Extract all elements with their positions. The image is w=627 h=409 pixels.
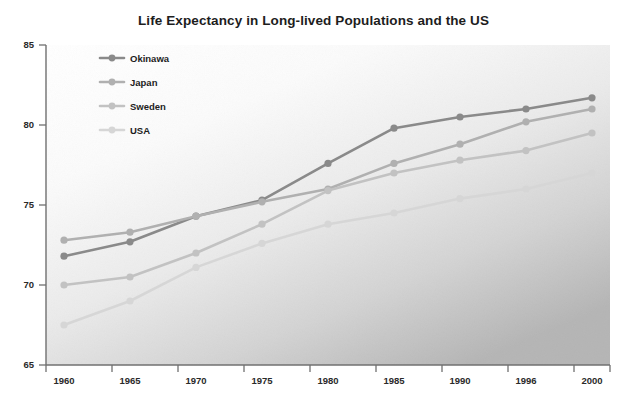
y-tick-label: 75: [23, 199, 34, 210]
legend-label: Sweden: [130, 101, 166, 112]
data-point: [390, 209, 397, 216]
data-point: [522, 118, 529, 125]
chart-figure: Life Expectancy in Long-lived Population…: [0, 0, 627, 409]
data-point: [588, 94, 595, 101]
y-axis-ticks: [39, 45, 46, 365]
line-chart-plot: 85 80 75 70 65 1960196519701975198019851…: [0, 0, 627, 409]
data-point: [390, 169, 397, 176]
data-point: [324, 160, 331, 167]
data-point: [456, 157, 463, 164]
legend-marker-icon: [109, 103, 116, 110]
data-point: [192, 213, 199, 220]
legend-marker-icon: [109, 79, 116, 86]
y-tick-label: 65: [23, 359, 34, 370]
legend-label: USA: [130, 125, 150, 136]
legend-marker-icon: [109, 55, 116, 62]
data-point: [324, 187, 331, 194]
x-tick-label: 1996: [515, 375, 536, 386]
data-point: [60, 237, 67, 244]
data-point: [60, 281, 67, 288]
data-point: [126, 238, 133, 245]
y-tick-label: 70: [23, 279, 34, 290]
data-point: [126, 229, 133, 236]
x-tick-label: 1980: [317, 375, 338, 386]
x-axis-ticks: [46, 365, 610, 372]
data-point: [192, 249, 199, 256]
data-point: [522, 105, 529, 112]
data-point: [456, 141, 463, 148]
legend-label: Japan: [130, 77, 158, 88]
data-point: [588, 129, 595, 136]
x-tick-label: 1970: [185, 375, 206, 386]
data-point: [192, 264, 199, 271]
data-point: [588, 105, 595, 112]
x-tick-label: 1985: [383, 375, 405, 386]
x-tick-label: 1960: [53, 375, 74, 386]
x-axis-tick-labels: 196019651970197519801985199019962000: [53, 375, 602, 386]
legend-label: Okinawa: [130, 53, 170, 64]
y-axis-tick-labels: 85 80 75 70 65: [23, 39, 34, 370]
y-tick-label: 80: [23, 119, 34, 130]
data-point: [60, 253, 67, 260]
data-point: [258, 240, 265, 247]
x-tick-label: 1975: [251, 375, 273, 386]
data-point: [390, 160, 397, 167]
x-tick-label: 2000: [581, 375, 602, 386]
data-point: [258, 221, 265, 228]
y-tick-label: 85: [23, 39, 34, 50]
legend-marker-icon: [109, 127, 116, 134]
data-point: [456, 195, 463, 202]
data-point: [324, 221, 331, 228]
data-point: [390, 125, 397, 132]
plot-background-grain: [46, 45, 610, 365]
data-point: [522, 147, 529, 154]
x-tick-label: 1965: [119, 375, 141, 386]
data-point: [522, 185, 529, 192]
x-tick-label: 1990: [449, 375, 470, 386]
data-point: [588, 169, 595, 176]
data-point: [60, 321, 67, 328]
data-point: [258, 198, 265, 205]
data-point: [126, 297, 133, 304]
data-point: [126, 273, 133, 280]
data-point: [456, 113, 463, 120]
